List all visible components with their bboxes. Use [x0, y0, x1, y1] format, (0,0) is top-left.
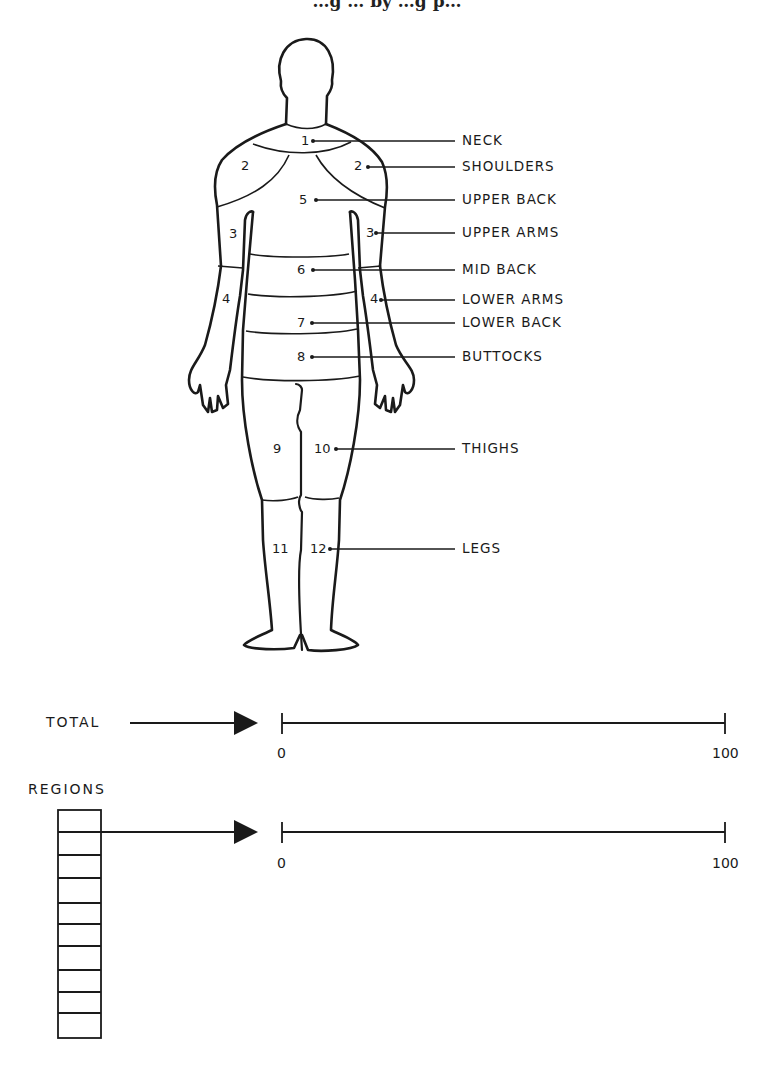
num-lower-arm-left: 4: [222, 291, 230, 306]
torso-left-side: [242, 212, 300, 649]
inner-legs: [296, 384, 302, 650]
regions-max-label: 100: [712, 855, 739, 871]
label-lower-back: LOWER BACK: [462, 314, 562, 330]
total-min-label: 0: [277, 745, 286, 761]
regions-box: [58, 810, 725, 1038]
num-upper-back: 5: [299, 192, 307, 207]
regions-min-label: 0: [277, 855, 286, 871]
body-diagram: [0, 0, 774, 1077]
head-outline: [279, 39, 333, 124]
label-lower-arms: LOWER ARMS: [462, 291, 564, 307]
num-shoulder-left: 2: [241, 158, 249, 173]
num-thigh-left: 9: [273, 441, 281, 456]
label-upper-arms: UPPER ARMS: [462, 224, 559, 240]
num-shoulder-right: 2: [354, 158, 362, 173]
label-mid-back: MID BACK: [462, 261, 537, 277]
label-upper-back: UPPER BACK: [462, 191, 557, 207]
num-mid-back: 6: [297, 262, 305, 277]
num-upper-arm-left: 3: [229, 226, 237, 241]
num-leg-right: 12: [310, 541, 327, 556]
num-thigh-right: 10: [314, 441, 331, 456]
total-max-label: 100: [712, 745, 739, 761]
label-buttocks: BUTTOCKS: [462, 348, 543, 364]
torso-right-side: [302, 212, 360, 651]
num-lower-arm-right: 4: [370, 291, 378, 306]
num-leg-left: 11: [272, 541, 289, 556]
regions-label: REGIONS: [28, 781, 106, 797]
num-upper-arm-right: 3: [366, 225, 374, 240]
regions-arrow-icon: [234, 820, 258, 844]
num-neck: 1: [301, 133, 309, 148]
label-neck: NECK: [462, 132, 503, 148]
label-thighs: THIGHS: [462, 440, 520, 456]
num-lower-back: 7: [297, 315, 305, 330]
label-shoulders: SHOULDERS: [462, 158, 555, 174]
total-arrow-icon: [234, 711, 258, 735]
label-legs: LEGS: [462, 540, 501, 556]
total-label: TOTAL: [46, 714, 100, 730]
num-buttocks: 8: [297, 349, 305, 364]
total-scale: [130, 713, 725, 734]
